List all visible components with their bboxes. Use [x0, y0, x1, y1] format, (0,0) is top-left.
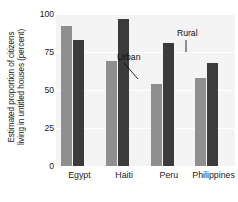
- y-axis-title-line-2: living in untitled houses (percent): [17, 29, 28, 145]
- y-axis-tick-label: 100: [40, 9, 54, 19]
- bar-haiti-urban: [106, 61, 117, 166]
- bar-philippines-urban: [195, 78, 206, 166]
- y-axis-tick-label: 25: [44, 123, 54, 133]
- annotation-label-urban: Urban: [117, 52, 140, 62]
- y-axis-tick-labels: 0255075100: [30, 8, 54, 173]
- bar-egypt-urban: [61, 26, 72, 166]
- plot-area: [56, 14, 235, 166]
- bar-peru-urban: [151, 84, 162, 166]
- y-axis-tick-label: 0: [49, 161, 54, 171]
- bar-chart: Estimated proportion of citizens living …: [0, 0, 238, 202]
- bar-peru-rural: [163, 43, 174, 166]
- bar-egypt-rural: [73, 40, 84, 166]
- bars-layer: [56, 14, 235, 166]
- bar-group: [56, 14, 101, 166]
- y-axis-title: Estimated proportion of citizens living …: [0, 2, 34, 172]
- x-axis-tick-label: Philippines: [192, 170, 235, 180]
- y-axis-title-line-1: Estimated proportion of citizens: [7, 31, 18, 142]
- x-axis-tick-labels: EgyptHaitiPeruPhilippines: [56, 170, 235, 188]
- annotation-label-rural: Rural: [177, 28, 198, 38]
- x-axis-tick-label: Peru: [160, 170, 179, 180]
- y-axis-tick-label: 75: [44, 47, 54, 57]
- bar-haiti-rural: [118, 19, 129, 166]
- y-axis-tick-label: 50: [44, 85, 54, 95]
- bar-philippines-rural: [207, 63, 218, 166]
- x-axis-tick-label: Egypt: [68, 170, 91, 180]
- bar-group: [101, 14, 146, 166]
- x-axis-tick-label: Haiti: [115, 170, 133, 180]
